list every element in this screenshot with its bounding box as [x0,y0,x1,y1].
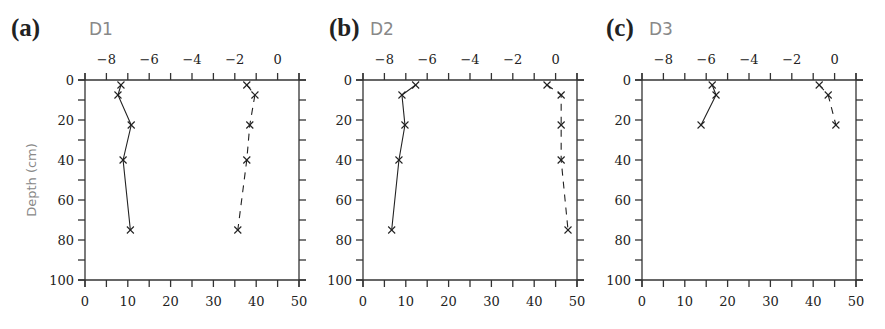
svg-text:40: 40 [248,294,265,309]
svg-text:20: 20 [440,294,457,309]
svg-text:0: 0 [344,73,352,88]
svg-text:−6: −6 [418,52,437,67]
svg-text:100: 100 [327,273,352,288]
plot-c: 02040608010001020304050−8−6−4−20 [557,0,867,329]
svg-text:10: 10 [677,294,694,309]
svg-text:40: 40 [614,153,631,168]
panel-b: (b) D2 02040608010001020304050−8−6−4−20 [278,0,573,329]
svg-text:60: 60 [335,193,352,208]
svg-text:30: 30 [483,294,500,309]
svg-text:0: 0 [623,73,631,88]
svg-text:20: 20 [719,294,736,309]
svg-text:0: 0 [359,294,367,309]
svg-text:60: 60 [57,193,74,208]
svg-text:30: 30 [762,294,779,309]
plot-a: 02040608010001020304050−8−6−4−20Depth (c… [0,0,310,329]
svg-text:20: 20 [614,113,631,128]
svg-text:40: 40 [335,153,352,168]
svg-text:−8: −8 [97,52,116,67]
svg-text:20: 20 [57,113,74,128]
svg-text:−6: −6 [140,52,159,67]
svg-text:0: 0 [66,73,74,88]
svg-text:20: 20 [335,113,352,128]
svg-text:40: 40 [805,294,822,309]
svg-text:−4: −4 [739,52,758,67]
svg-text:0: 0 [830,52,838,67]
svg-text:−8: −8 [654,52,673,67]
svg-text:−4: −4 [460,52,479,67]
svg-text:40: 40 [526,294,543,309]
svg-text:40: 40 [57,153,74,168]
panel-c: (c) D3 02040608010001020304050−8−6−4−20 [557,0,852,329]
svg-text:20: 20 [162,294,179,309]
svg-text:−6: −6 [697,52,716,67]
svg-text:80: 80 [57,233,74,248]
svg-text:0: 0 [81,294,89,309]
svg-text:10: 10 [120,294,137,309]
svg-text:60: 60 [614,193,631,208]
svg-text:−4: −4 [182,52,201,67]
svg-text:80: 80 [335,233,352,248]
svg-text:100: 100 [606,273,631,288]
svg-text:50: 50 [848,294,865,309]
svg-text:10: 10 [398,294,415,309]
svg-text:100: 100 [49,273,74,288]
svg-text:80: 80 [614,233,631,248]
plot-b: 02040608010001020304050−8−6−4−20 [278,0,588,329]
svg-text:−2: −2 [503,52,522,67]
panel-a: (a) D1 02040608010001020304050−8−6−4−20D… [0,0,295,329]
svg-text:−8: −8 [375,52,394,67]
svg-text:−2: −2 [225,52,244,67]
svg-text:−2: −2 [782,52,801,67]
svg-text:0: 0 [638,294,646,309]
svg-text:Depth (cm): Depth (cm) [24,143,39,217]
svg-text:30: 30 [205,294,222,309]
